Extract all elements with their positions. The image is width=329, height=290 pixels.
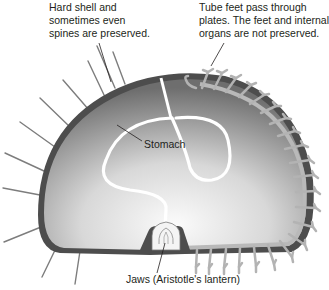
tube-feet-leader: [211, 43, 224, 66]
label-jaws: Jaws (Aristotle's lantern): [126, 273, 240, 286]
label-tube-feet: Tube feet pass through plates. The feet …: [199, 1, 329, 40]
label-stomach: Stomach: [144, 138, 185, 151]
aristotles-lantern: [152, 222, 180, 250]
shell-leader: [99, 43, 111, 82]
label-hard-shell: Hard shell and sometimes even spines are…: [49, 1, 150, 40]
body-interior: [44, 79, 307, 250]
